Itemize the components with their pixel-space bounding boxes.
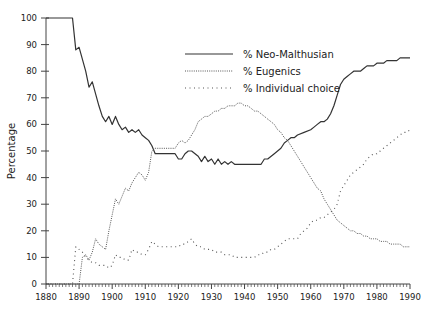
- series-neo-malthusian: [46, 18, 410, 164]
- series-individual-choice: [46, 130, 410, 284]
- y-tick-label: 90: [26, 40, 37, 50]
- legend-label-eugenics: % Eugenics: [243, 66, 301, 77]
- legend-label-individual-choice: % Individual choice: [243, 83, 340, 94]
- x-tick-label: 1920: [168, 292, 190, 302]
- x-tick-label: 1880: [35, 292, 57, 302]
- x-tick-label: 1980: [366, 292, 388, 302]
- x-tick-label: 1960: [300, 292, 322, 302]
- x-tick-label: 1900: [101, 292, 123, 302]
- y-tick-label: 30: [26, 199, 37, 209]
- y-tick-label: 10: [26, 252, 37, 262]
- x-tick-label: 1930: [201, 292, 223, 302]
- legend: % Neo-Malthusian % Eugenics % Individual…: [185, 49, 340, 94]
- y-tick-label: 0: [32, 279, 37, 289]
- legend-label-neo-malthusian: % Neo-Malthusian: [243, 49, 334, 60]
- y-axis-label: Percentage: [6, 123, 17, 179]
- y-tick-label: 80: [26, 66, 37, 76]
- x-tick-label: 1990: [399, 292, 421, 302]
- y-axis: 0102030405060708090100: [21, 13, 49, 289]
- y-tick-label: 100: [21, 13, 37, 23]
- y-tick-label: 20: [26, 226, 37, 236]
- x-tick-label: 1970: [333, 292, 355, 302]
- series-layer: [46, 18, 410, 284]
- y-tick-label: 40: [26, 173, 37, 183]
- x-axis: 1880189019001910192019301940195019601970…: [35, 284, 421, 302]
- x-tick-label: 1890: [68, 292, 90, 302]
- y-tick-label: 70: [26, 93, 37, 103]
- line-chart: 0102030405060708090100 18801890190019101…: [0, 0, 433, 322]
- x-tick-label: 1950: [267, 292, 289, 302]
- y-tick-label: 60: [26, 119, 37, 129]
- x-tick-label: 1940: [234, 292, 256, 302]
- series-eugenics: [46, 103, 410, 284]
- y-tick-label: 50: [26, 146, 37, 156]
- x-tick-label: 1910: [134, 292, 156, 302]
